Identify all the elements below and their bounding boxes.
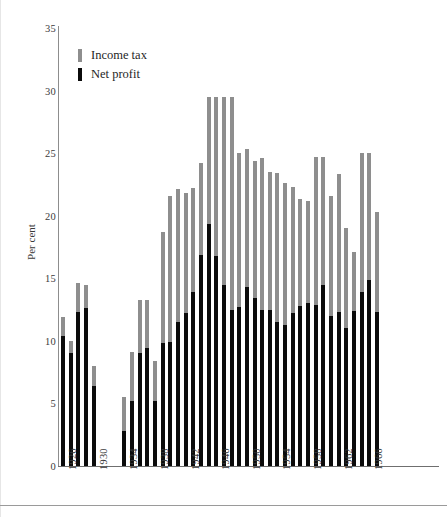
x-tick-label: 1954 <box>281 448 292 470</box>
bar <box>268 172 272 466</box>
bar-segment-net-profit <box>245 287 249 466</box>
bar-segment-net-profit <box>329 316 333 466</box>
bar-segment-net-profit <box>176 322 180 466</box>
bar-segment-income-tax <box>84 285 88 309</box>
x-tick-label: 1966 <box>373 448 384 470</box>
bar-segment-net-profit <box>337 312 341 466</box>
bar-segment-income-tax <box>130 352 134 401</box>
bar-segment-income-tax <box>191 188 195 292</box>
bar-segment-net-profit <box>191 292 195 466</box>
bar <box>122 397 126 466</box>
bar-segment-income-tax <box>314 157 318 305</box>
bar-segment-income-tax <box>268 172 272 310</box>
bar-segment-income-tax <box>283 183 287 324</box>
bar-segment-income-tax <box>260 158 264 309</box>
bar-segment-income-tax <box>329 196 333 316</box>
bar <box>92 366 96 466</box>
bar-segment-net-profit <box>199 255 203 466</box>
legend-label: Net profit <box>91 67 140 82</box>
bar <box>253 161 257 466</box>
bar-segment-income-tax <box>138 300 142 354</box>
bar-segment-income-tax <box>176 189 180 322</box>
bar-segment-income-tax <box>253 161 257 299</box>
bar <box>260 158 264 466</box>
chart-legend: Income taxNet profit <box>78 46 228 84</box>
bar <box>367 153 371 466</box>
bar <box>275 173 279 466</box>
bar-segment-net-profit <box>92 386 96 466</box>
bar-segment-net-profit <box>145 348 149 466</box>
bar <box>145 300 149 466</box>
bar-segment-income-tax <box>76 283 80 312</box>
x-tick-label: 1938 <box>159 448 170 470</box>
bar <box>337 174 341 466</box>
y-tick-label: 20 <box>18 210 56 221</box>
bar-segment-income-tax <box>237 153 241 307</box>
bar-segment-income-tax <box>375 212 379 312</box>
bar <box>344 228 348 466</box>
bar <box>291 187 295 466</box>
bar-segment-income-tax <box>199 163 203 254</box>
bar-segment-income-tax <box>360 153 364 292</box>
bar-segment-net-profit <box>283 325 287 466</box>
bar-segment-net-profit <box>352 311 356 466</box>
bar-segment-income-tax <box>69 341 73 354</box>
page-rule <box>0 505 447 506</box>
x-tick-label: 1930 <box>98 448 109 470</box>
bar <box>298 199 302 466</box>
x-tick-label: 1962 <box>343 448 354 470</box>
bar-segment-income-tax <box>153 361 157 401</box>
y-tick-label: 15 <box>18 273 56 284</box>
bar-segment-net-profit <box>230 310 234 466</box>
bar-segment-net-profit <box>153 401 157 466</box>
bar <box>306 201 310 466</box>
x-tick-label: 1934 <box>128 448 139 470</box>
bar <box>176 189 180 466</box>
bar-segment-net-profit <box>306 303 310 466</box>
page-edge <box>0 0 1 517</box>
legend-item: Income tax <box>78 46 228 65</box>
bar-segment-income-tax <box>298 199 302 305</box>
bar-segment-income-tax <box>344 228 348 328</box>
bar <box>161 232 165 466</box>
bar-segment-income-tax <box>222 97 226 285</box>
bar-segment-income-tax <box>161 232 165 343</box>
bar-segment-income-tax <box>122 397 126 431</box>
bar-segment-income-tax <box>352 252 356 311</box>
bar <box>138 300 142 466</box>
bar-segment-net-profit <box>291 313 295 466</box>
bar-segment-income-tax <box>291 187 295 313</box>
bar-segment-income-tax <box>168 196 172 342</box>
bar-segment-net-profit <box>298 306 302 466</box>
bar <box>61 317 65 466</box>
bar-segment-net-profit <box>275 322 279 466</box>
bar-segment-net-profit <box>61 336 65 466</box>
x-tick-label: 1950 <box>251 448 262 470</box>
bar <box>375 212 379 466</box>
bar <box>360 153 364 466</box>
bar-segment-income-tax <box>321 157 325 285</box>
bar <box>214 97 218 466</box>
x-axis-ticks: 1926193019341938194219461950195419581962… <box>0 466 447 517</box>
bar-segment-net-profit <box>237 307 241 466</box>
legend-swatch-icon <box>78 68 82 81</box>
x-tick-label: 1942 <box>190 448 201 470</box>
bar-segment-income-tax <box>92 366 96 386</box>
bar <box>76 283 80 466</box>
bar <box>237 153 241 466</box>
bar-segment-net-profit <box>375 312 379 466</box>
y-tick-label: 35 <box>18 23 56 34</box>
legend-item: Net profit <box>78 65 228 84</box>
bar-segment-net-profit <box>253 298 257 466</box>
bar-segment-income-tax <box>214 97 218 256</box>
y-tick-label: 10 <box>18 335 56 346</box>
bar <box>184 193 188 466</box>
bar-segment-net-profit <box>367 280 371 466</box>
y-tick-label: 30 <box>18 85 56 96</box>
bar-segment-net-profit <box>314 305 318 466</box>
bar <box>283 183 287 466</box>
bar <box>191 188 195 466</box>
bar <box>245 149 249 466</box>
bar-segment-net-profit <box>344 328 348 466</box>
bar <box>207 97 211 466</box>
